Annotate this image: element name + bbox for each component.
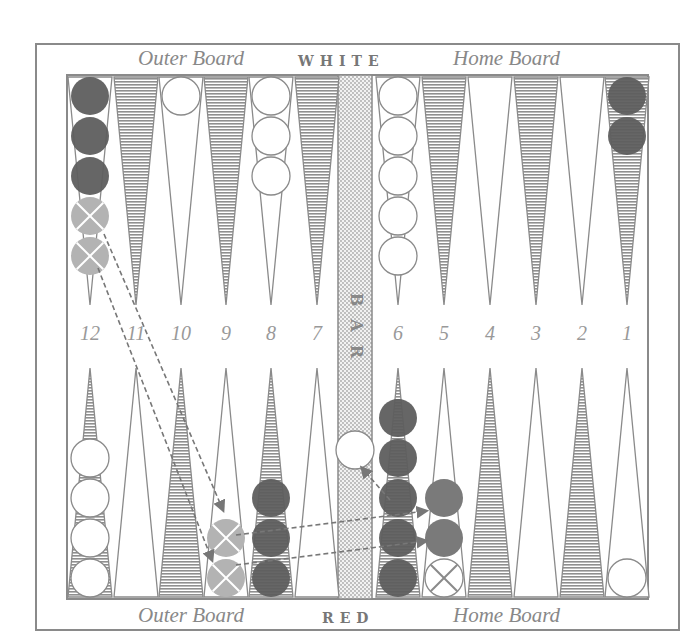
white-checker — [336, 431, 374, 469]
white-checker — [379, 77, 417, 115]
dark-checker — [252, 559, 290, 597]
medium-checker — [425, 519, 463, 557]
empty_x-checker — [425, 559, 463, 597]
dark-checker — [71, 157, 109, 195]
white-checker — [252, 117, 290, 155]
point-number-3: 3 — [516, 322, 556, 345]
ghost_x-checker — [71, 197, 109, 235]
dark-checker — [608, 117, 646, 155]
dark-checker — [252, 479, 290, 517]
bottom-right-label: Home Board — [453, 603, 560, 628]
ghost_x-checker — [207, 519, 245, 557]
white-checker — [252, 157, 290, 195]
medium-checker — [425, 479, 463, 517]
bar-letter-r: R — [347, 342, 366, 362]
point-number-6: 6 — [378, 322, 418, 345]
white-checker — [162, 77, 200, 115]
ghost_x-checker — [71, 237, 109, 275]
bar-letter-a: A — [347, 316, 366, 336]
bottom-left-label: Outer Board — [138, 603, 244, 628]
white-checker — [379, 117, 417, 155]
dark-checker — [379, 479, 417, 517]
dark-checker — [252, 519, 290, 557]
dark-checker — [379, 399, 417, 437]
white-checker — [71, 479, 109, 517]
white-checker — [379, 237, 417, 275]
bar — [338, 75, 372, 599]
white-checker — [252, 77, 290, 115]
dark-checker — [71, 117, 109, 155]
point-number-7: 7 — [297, 322, 337, 345]
top-left-label: Outer Board — [138, 46, 244, 71]
white-checker — [71, 519, 109, 557]
point-number-9: 9 — [206, 322, 246, 345]
point-number-1: 1 — [607, 322, 647, 345]
point-number-10: 10 — [161, 322, 201, 345]
white-side-label: WHITE — [298, 53, 385, 69]
top-right-label: Home Board — [453, 46, 560, 71]
point-number-11: 11 — [116, 322, 156, 345]
red-side-label: RED — [322, 610, 374, 626]
white-checker — [71, 439, 109, 477]
point-number-4: 4 — [470, 322, 510, 345]
point-number-12: 12 — [70, 322, 110, 345]
dark-checker — [379, 559, 417, 597]
point-number-5: 5 — [424, 322, 464, 345]
white-checker — [608, 559, 646, 597]
point-number-2: 2 — [562, 322, 602, 345]
dark-checker — [379, 519, 417, 557]
bar-letter-b: B — [347, 290, 366, 310]
white-checker — [71, 559, 109, 597]
white-checker — [379, 197, 417, 235]
dark-checker — [379, 439, 417, 477]
white-checker — [379, 157, 417, 195]
point-number-8: 8 — [251, 322, 291, 345]
dark-checker — [71, 77, 109, 115]
dark-checker — [608, 77, 646, 115]
